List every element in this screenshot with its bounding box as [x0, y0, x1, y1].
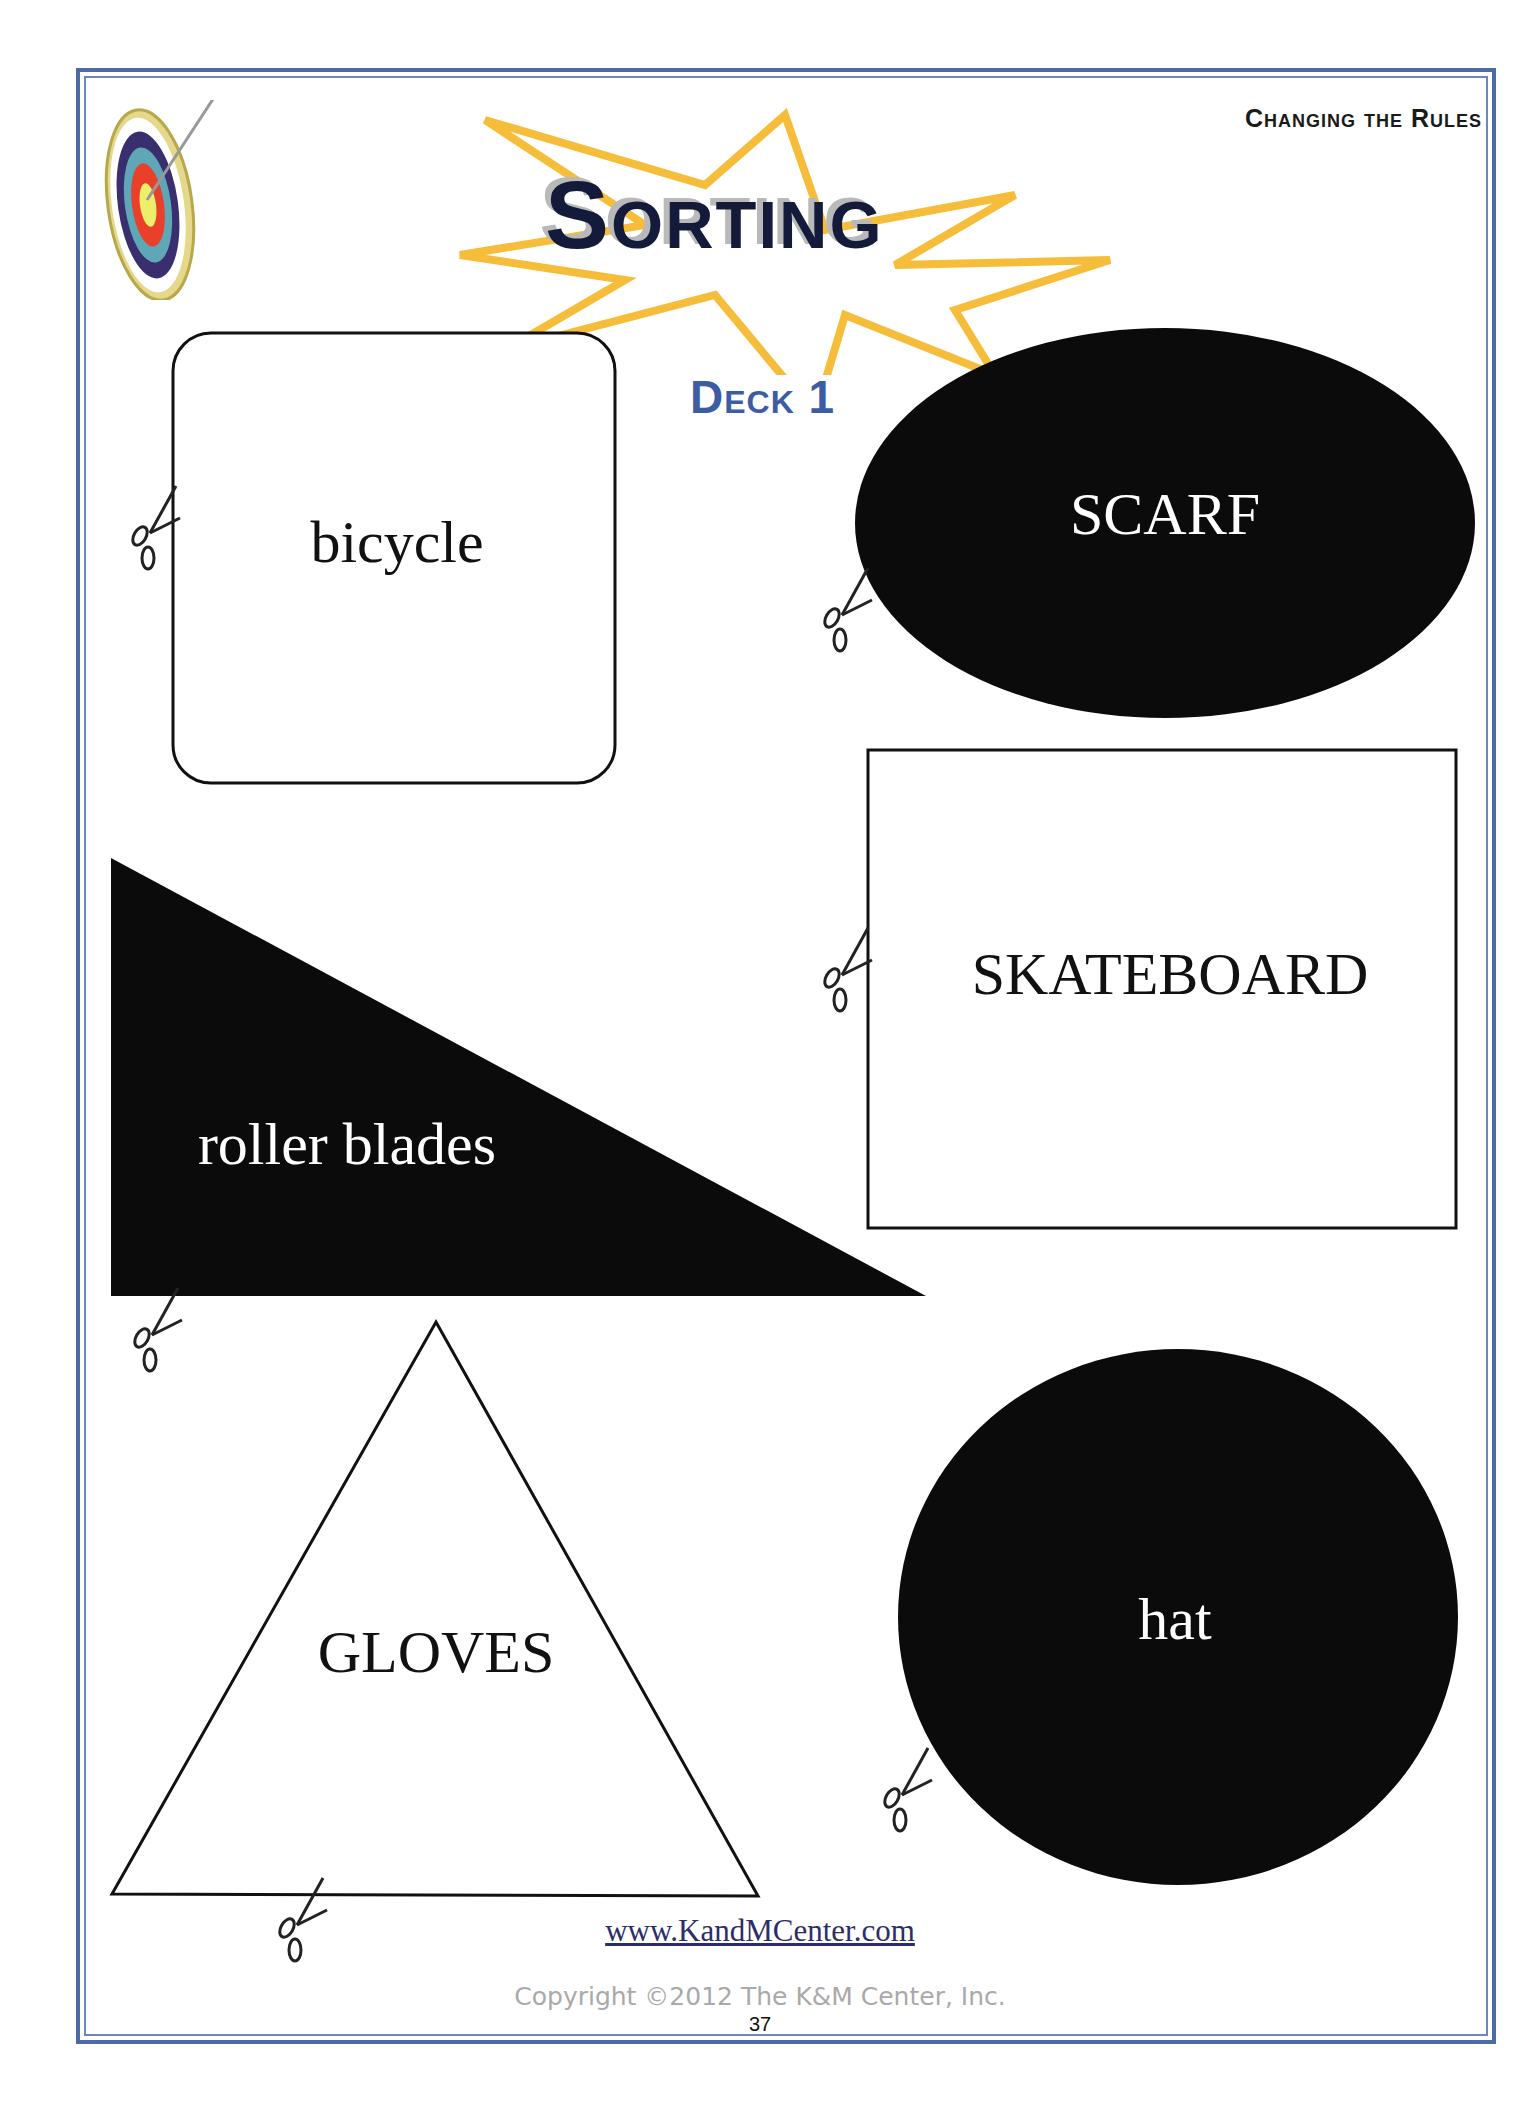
copyright-text: Copyright ©2012 The K&M Center, Inc.	[0, 1982, 1520, 2011]
card-label-roller-blades: roller blades	[198, 1110, 496, 1179]
card-roller-blades[interactable]	[111, 858, 926, 1296]
scissors-icon[interactable]	[130, 1280, 190, 1380]
card-shapes	[0, 0, 1520, 2111]
website-link[interactable]: www.KandMCenter.com	[0, 1913, 1520, 1949]
scissors-icon[interactable]	[128, 478, 188, 578]
scissors-icon[interactable]	[880, 1740, 940, 1840]
card-label-gloves: GLOVES	[318, 1618, 555, 1687]
card-gloves[interactable]	[112, 1322, 758, 1896]
card-label-scarf: SCARF	[1070, 480, 1260, 549]
scissors-icon[interactable]	[820, 560, 880, 660]
card-label-hat: hat	[1138, 1585, 1211, 1654]
scissors-icon[interactable]	[820, 920, 880, 1020]
page-number: 37	[0, 2013, 1520, 2036]
card-label-bicycle: bicycle	[310, 508, 483, 577]
card-label-skateboard: SKATEBOARD	[972, 940, 1369, 1009]
